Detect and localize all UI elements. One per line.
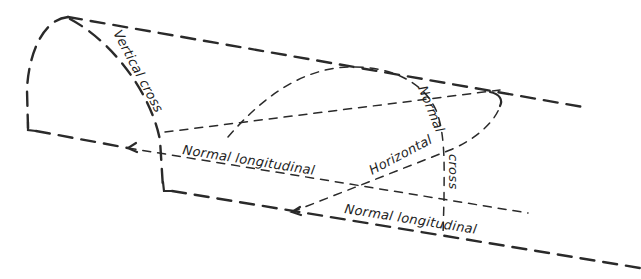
right-curl (490, 92, 501, 106)
front-arch-outline (27, 17, 68, 128)
front-bottom-edge (36, 131, 128, 148)
section-diagram: Vertical cross Normal longitudinal Norma… (0, 0, 641, 279)
label-vertical-cross: Vertical cross (110, 27, 166, 115)
label-normal-cross-top: Normal (415, 84, 447, 135)
bottom-long-edge (172, 191, 640, 268)
upper-diagonal-line (165, 90, 500, 132)
label-normal-cross-bottom: cross (446, 154, 461, 190)
vertical-cross-corner (163, 182, 172, 191)
label-normal-longitudinal-lower: Normal longitudinal (344, 201, 479, 237)
label-normal-longitudinal-upper: Normal longitudinal (182, 142, 317, 178)
front-arch-corner (28, 122, 36, 131)
label-horizontal: Horizontal (366, 132, 434, 178)
